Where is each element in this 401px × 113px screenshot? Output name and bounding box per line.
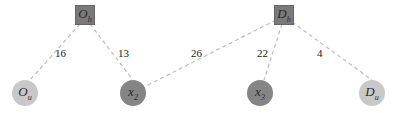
edge-label-dh-du: 4 xyxy=(317,47,323,59)
node-d-u: Du xyxy=(359,80,385,106)
edge-label-oh-x2: 13 xyxy=(118,47,129,59)
edge-label-dh-x2: 26 xyxy=(191,47,202,59)
node-x2: x2 xyxy=(120,80,146,106)
node-o-u: Ou xyxy=(12,80,38,106)
node-o-h: Oh xyxy=(75,5,95,25)
node-d-h-label: Dh xyxy=(277,6,290,24)
node-x3-label: x3 xyxy=(255,84,265,102)
node-o-h-label: Oh xyxy=(78,6,91,24)
node-d-h: Dh xyxy=(274,5,294,25)
node-o-u-label: Ou xyxy=(18,84,31,102)
edge-label-dh-x3: 22 xyxy=(257,47,268,59)
node-d-u-label: Du xyxy=(365,84,378,102)
edge-dh-du xyxy=(292,22,372,80)
edge-label-oh-ou: 16 xyxy=(55,47,66,59)
node-x3: x3 xyxy=(247,80,273,106)
node-x2-label: x2 xyxy=(128,84,138,102)
